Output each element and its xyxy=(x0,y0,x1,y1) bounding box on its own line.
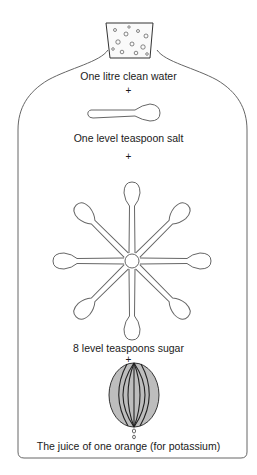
plus-sign: + xyxy=(0,86,257,96)
step-sugar-label: 8 level teaspoons sugar xyxy=(0,342,257,354)
orange-icon xyxy=(109,363,159,439)
step-orange-label: The juice of one orange (for potassium) xyxy=(0,440,257,452)
step-salt-label: One level teaspoon salt xyxy=(0,132,257,144)
step-water-label: One litre clean water xyxy=(0,70,257,82)
stopper-icon xyxy=(106,23,153,58)
teaspoon-salt-icon xyxy=(88,104,160,121)
plus-sign: + xyxy=(0,152,257,162)
plus-sign: + xyxy=(0,355,257,365)
teaspoons-sugar-icon xyxy=(53,182,211,340)
